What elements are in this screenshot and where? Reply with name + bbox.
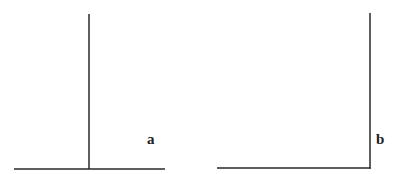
figure-a [14, 14, 165, 169]
figure-canvas [0, 0, 397, 174]
figure-b-label: b [376, 132, 384, 147]
figure-b [217, 13, 371, 169]
figure-a-label: a [147, 132, 155, 147]
